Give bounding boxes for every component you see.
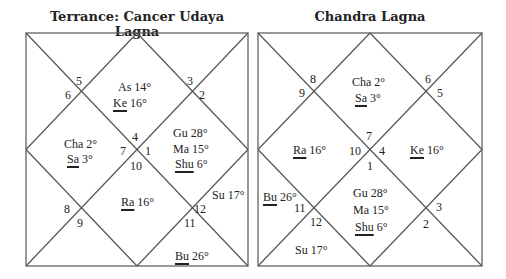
planet-ma: Ma 15°	[353, 203, 389, 218]
planet-cha: Cha 2°	[352, 75, 385, 90]
planet-degree: 26°	[189, 249, 209, 263]
planet-sa: Sa 3°	[355, 91, 381, 106]
planet-shu: Shu 6°	[175, 157, 208, 172]
planet-name: Sa	[355, 91, 367, 105]
house-number: 6	[65, 89, 71, 101]
planet-ra: Ra 16°	[293, 143, 326, 158]
planet-gu: Gu 28°	[173, 126, 207, 141]
planet-ke: Ke 16°	[410, 143, 444, 158]
planet-bu: Bu 26°	[175, 249, 209, 264]
planet-ke: Ke 16°	[113, 96, 147, 111]
planet-name: Sa	[67, 152, 79, 166]
house-number: 12	[194, 203, 206, 215]
planet-name: Bu	[175, 249, 189, 263]
planet-degree: 16°	[424, 143, 444, 157]
planet-degree: 3°	[367, 91, 381, 105]
house-number: 1	[367, 160, 373, 172]
planet-su: Su 17°	[295, 243, 327, 258]
house-number: 7	[120, 145, 126, 157]
house-number: 10	[349, 145, 361, 157]
planet-name: Ra	[121, 195, 134, 209]
planet-name: Ke	[410, 143, 424, 157]
planet-name: Bu	[263, 190, 277, 204]
house-number: 5	[437, 87, 443, 99]
house-number: 4	[379, 145, 385, 157]
planet-degree: 26°	[277, 190, 297, 204]
planet-name: Ke	[113, 96, 127, 110]
planet-degree: 16°	[127, 96, 147, 110]
house-number: 2	[423, 218, 429, 230]
planet-ma: Ma 15°	[173, 142, 209, 157]
house-number: 9	[299, 87, 305, 99]
house-number: 2	[199, 89, 205, 101]
house-number: 5	[76, 75, 82, 87]
left-chart-grid	[26, 33, 248, 266]
planet-cha: Cha 2°	[64, 137, 97, 152]
planet-degree: 6°	[194, 157, 208, 171]
house-number: 6	[425, 73, 431, 85]
planet-degree: 6°	[374, 220, 388, 234]
planet-bu: Bu 26°	[263, 190, 297, 205]
house-number: 8	[64, 203, 70, 215]
planet-name: Shu	[175, 157, 194, 171]
house-number: 12	[310, 216, 322, 228]
planet-name: Ra	[293, 143, 306, 157]
planet-shu: Shu 6°	[355, 220, 388, 235]
house-number: 7	[366, 130, 372, 142]
planet-degree: 16°	[134, 195, 154, 209]
house-number: 11	[184, 217, 196, 229]
planet-su: Su 17°	[212, 188, 244, 203]
planet-gu: Gu 28°	[353, 186, 387, 201]
planet-name: Shu	[355, 220, 374, 234]
house-number: 3	[436, 201, 442, 213]
planet-degree: 16°	[306, 143, 326, 157]
house-number: 1	[145, 145, 151, 157]
house-number: 3	[187, 75, 193, 87]
house-number: 9	[77, 217, 83, 229]
house-number: 10	[130, 160, 142, 172]
planet-ra: Ra 16°	[121, 195, 154, 210]
house-number: 4	[132, 131, 138, 143]
house-number: 8	[310, 73, 316, 85]
planet-sa: Sa 3°	[67, 152, 93, 167]
right-chart-title: Chandra Lagna	[258, 9, 482, 24]
planet-degree: 3°	[79, 152, 93, 166]
planet-as: As 14°	[118, 80, 151, 95]
